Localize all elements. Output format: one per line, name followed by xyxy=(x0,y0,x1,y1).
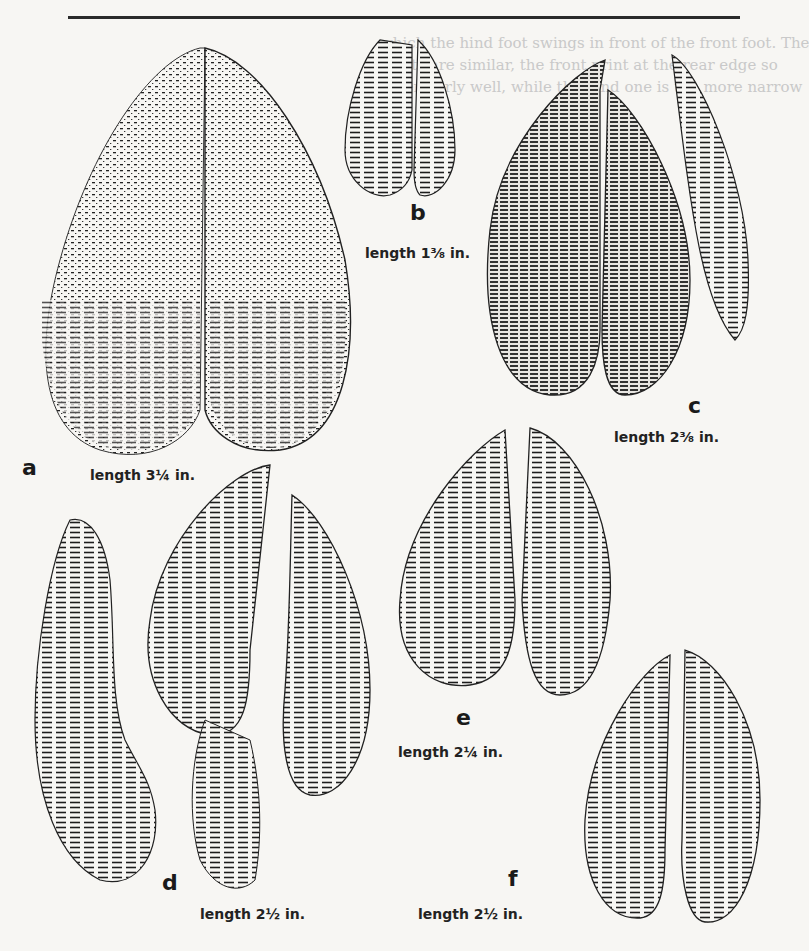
figure-caption-f: length 2½ in. xyxy=(418,906,523,922)
figure-letter-b: b xyxy=(410,200,426,225)
figure-letter-c: c xyxy=(688,393,701,418)
figure-caption-d: length 2½ in. xyxy=(200,906,305,922)
figure-caption-b: length 1⅜ in. xyxy=(365,245,470,261)
figure-letter-e: e xyxy=(456,705,471,730)
track-c xyxy=(488,55,749,395)
figure-caption-c: length 2⅜ in. xyxy=(614,429,719,445)
track-f xyxy=(585,650,760,922)
figure-caption-a: length 3¼ in. xyxy=(90,467,195,483)
figure-letter-f: f xyxy=(508,866,518,891)
track-a xyxy=(40,48,350,454)
figure-letter-a: a xyxy=(22,455,37,480)
figure-caption-e: length 2¼ in. xyxy=(398,744,503,760)
track-e xyxy=(400,428,611,695)
track-b xyxy=(345,40,455,196)
track-d xyxy=(35,465,370,888)
figure-letter-d: d xyxy=(162,870,178,895)
